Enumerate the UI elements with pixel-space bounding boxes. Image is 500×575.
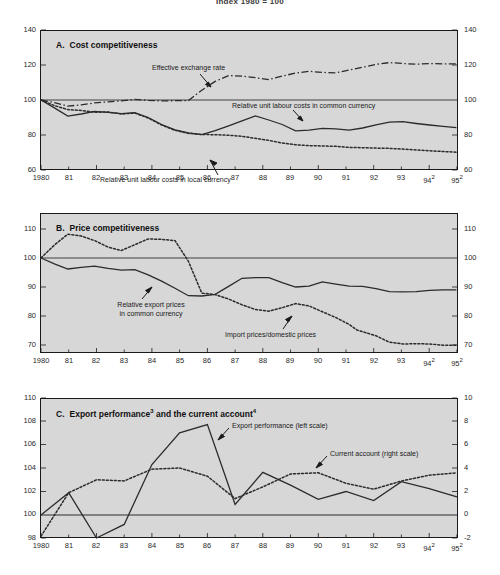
annotation-rulc-common-currency: Relative unit labour costs in common cur… (232, 102, 375, 111)
panel-c-ytick-right-6: 6 (464, 440, 468, 448)
annotation-rulc-local-currency: Relative unit labour costs in local curr… (100, 176, 231, 185)
panel-b-ytick-right-110: 110 (464, 225, 476, 233)
panel-a-title-text: Cost competitiveness (70, 40, 158, 50)
annotation-relative-export-prices: Relative export prices in common currenc… (86, 301, 216, 319)
panel-b-ytick-right-70: 70 (464, 341, 472, 349)
annotation-import-domestic-prices: Import prices/domestic prices (225, 331, 316, 340)
panel-c-ytick-left-102: 102 (8, 487, 36, 495)
panel-b-ytick-left-70: 70 (8, 341, 36, 349)
panel-c-title-sup2: 4 (253, 408, 256, 414)
panel-a-ytick-left-80: 80 (8, 131, 36, 139)
panel-c-ytick-left-110: 110 (8, 394, 36, 402)
panel-b-ytick-left-110: 110 (8, 225, 36, 233)
annotation-current-account: Current account (right scale) (330, 450, 418, 459)
panel-c-ytick-left-104: 104 (8, 464, 36, 472)
figure-title: Index 1980 = 100 (0, 0, 500, 6)
panel-c-title-part1: Export performance (70, 409, 151, 419)
panel-c-ytick-left-106: 106 (8, 440, 36, 448)
panel-c-letter: C. (56, 409, 65, 419)
panel-c-ytick-right-10: 10 (464, 394, 472, 402)
panel-c-ytick-right-neg2: -2 (464, 534, 471, 542)
panel-price-competitiveness: B.Price competitiveness 110 100 90 80 70… (0, 205, 500, 375)
panel-cost-competitiveness: A.Cost competitiveness 140 120 100 80 60… (0, 22, 500, 192)
panel-c-title-part2: and the current account (154, 409, 253, 419)
annotation-effective-exchange-rate: Effective exchange rate (152, 64, 225, 73)
panel-a-ytick-right-80: 80 (464, 131, 472, 139)
panel-b-letter: B. (56, 223, 65, 233)
panel-a-xlabel-95: 952 (439, 174, 475, 184)
panel-b-ytick-right-80: 80 (464, 312, 472, 320)
panel-b-ytick-right-100: 100 (464, 254, 477, 262)
panel-a-letter: A. (56, 40, 65, 50)
panel-c-title: C.Export performance3 and the current ac… (56, 408, 256, 419)
plot-area-c (40, 398, 458, 538)
panel-a-ytick-right-120: 120 (464, 61, 477, 69)
panel-a-ytick-left-140: 140 (8, 26, 36, 34)
panel-c-ytick-right-4: 4 (464, 464, 468, 472)
panel-c-ytick-right-0: 0 (464, 510, 468, 518)
annotation-export-prices-line2: in common currency (119, 310, 182, 317)
panel-c-ytick-right-8: 8 (464, 417, 468, 425)
panel-b-ytick-right-90: 90 (464, 283, 472, 291)
panel-b-ytick-left-90: 90 (8, 283, 36, 291)
panel-a-ytick-right-100: 100 (464, 96, 477, 104)
panel-b-title-text: Price competitiveness (70, 223, 160, 233)
annotation-export-prices-line1: Relative export prices (117, 301, 184, 308)
panel-c-ytick-right-2: 2 (464, 487, 468, 495)
panel-b-xlabel-95: 952 (439, 357, 475, 367)
panel-c-ytick-left-100: 100 (8, 510, 36, 518)
panel-a-ytick-left-100: 100 (8, 96, 36, 104)
annotation-export-performance: Export performance (left scale) (232, 422, 328, 431)
panel-a-ytick-right-60: 60 (464, 166, 472, 174)
panel-a-title: A.Cost competitiveness (56, 40, 157, 50)
panel-a-ytick-right-140: 140 (464, 26, 477, 34)
panel-c-xlabel-95: 952 (439, 542, 475, 552)
panel-c-ytick-left-108: 108 (8, 417, 36, 425)
panel-b-title: B.Price competitiveness (56, 223, 159, 233)
panel-a-ytick-left-120: 120 (8, 61, 36, 69)
panel-b-ytick-left-80: 80 (8, 312, 36, 320)
panel-export-performance-current-account: C.Export performance3 and the current ac… (0, 390, 500, 565)
panel-b-ytick-left-100: 100 (8, 254, 36, 262)
plot-area-a (40, 30, 458, 170)
